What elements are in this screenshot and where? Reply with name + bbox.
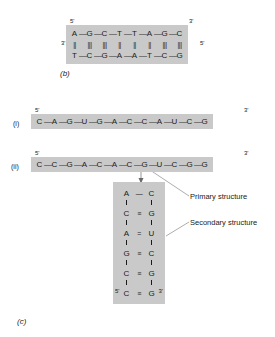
hairpin-pair-row: C≡G [113, 266, 165, 280]
dna-duplex-sequence-block: A—G—C—T—T—A—G—C |||||||||||||||||||| T—C… [66, 25, 188, 64]
hairpin-loop-link: — [132, 189, 146, 198]
rna-base-ii: G [140, 160, 149, 169]
hairpin-backbone-right [151, 200, 152, 205]
rna-ii-strand-row: C—C—G—A—C—A—C—G—U—C—G—G [35, 159, 209, 170]
dna-base-top: C [100, 29, 109, 38]
hairpin-hydrogen-bond: = [132, 229, 146, 238]
hairpin-base-right: C [146, 249, 157, 258]
rna-base-ii: C [95, 160, 104, 169]
hairpin-backbone-left [126, 280, 127, 285]
rna-base-ii: C [50, 160, 59, 169]
hairpin-base-left: C [121, 289, 132, 298]
dna-base-bottom: C [85, 51, 94, 60]
hydrogen-bond: || [115, 40, 124, 49]
hairpin-base-left: G [121, 249, 132, 258]
rna-base-i: G [95, 117, 104, 126]
rna-ii-five-prime-label: 5' [35, 150, 39, 156]
dna-base-bottom: A [130, 51, 139, 60]
rna-base-i: A [50, 117, 59, 126]
dna-top-three-prime-label: 3' [189, 18, 193, 24]
hairpin-base-left: C [121, 269, 132, 278]
hairpin-hydrogen-bond: ≡ [132, 249, 146, 258]
hairpin-pair-row: A=U [113, 226, 165, 240]
hairpin-backbone-left [126, 200, 127, 205]
dna-top-strand-row: A—G—C—T—T—A—G—C [70, 28, 184, 39]
dna-base-top: T [115, 29, 124, 38]
hairpin-base-right: G [146, 289, 157, 298]
hairpin-backbone-right [151, 280, 152, 285]
hydrogen-bond: ||| [85, 40, 94, 49]
dna-base-bottom: G [175, 51, 184, 60]
rna-base-ii: G [65, 160, 74, 169]
rna-base-i: U [170, 117, 179, 126]
rna-base-ii: C [170, 160, 179, 169]
rna-i-three-prime-label: 3' [244, 107, 248, 113]
dna-base-top: G [160, 29, 169, 38]
rna-base-i: G [65, 117, 74, 126]
hairpin-backbone-right [151, 240, 152, 245]
panel-c-label: (c) [17, 317, 26, 326]
dna-base-bottom: C [160, 51, 169, 60]
hydrogen-bond: ||| [160, 40, 169, 49]
rna-hairpin-secondary-structure: A—CC≡GA=UG≡CC≡GC≡G5'3' [113, 182, 165, 304]
rna-base-ii: C [125, 160, 134, 169]
rna-i-roman-label: (i) [13, 120, 19, 127]
rna-base-ii: A [110, 160, 119, 169]
dna-base-bottom: T [70, 51, 79, 60]
hydrogen-bond: ||| [100, 40, 109, 49]
dna-hydrogen-bond-row: |||||||||||||||||||| [70, 39, 184, 50]
annotation-secondary-structure: Secondary structure [190, 218, 257, 227]
dna-duplex-panel: 5' 3' 3' 5' A—G—C—T—T—A—G—C ||||||||||||… [66, 18, 188, 64]
dna-base-top: A [70, 29, 79, 38]
hairpin-base-left: A [121, 229, 132, 238]
dna-bottom-three-prime-label: 3' [61, 40, 65, 46]
hydrogen-bond: || [130, 40, 139, 49]
hairpin-three-prime-label: 3' [159, 288, 163, 294]
hairpin-hydrogen-bond: ≡ [132, 209, 146, 218]
rna-base-i: C [140, 117, 149, 126]
rna-base-i: C [125, 117, 134, 126]
dna-base-bottom: A [115, 51, 124, 60]
rna-base-i: A [110, 117, 119, 126]
rna-strand-ii-panel: 5' 3' C—C—G—A—C—A—C—G—U—C—G—G [31, 150, 213, 172]
hairpin-base-right: G [146, 209, 157, 218]
hairpin-hydrogen-bond: ≡ [132, 269, 146, 278]
rna-base-ii: C [35, 160, 44, 169]
leader-line-secondary [166, 222, 189, 236]
hairpin-loop-base-left: A [121, 189, 132, 198]
hairpin-backbone-left [126, 260, 127, 265]
rna-i-sequence-block: C—A—G—U—G—A—C—C—A—U—C—G [31, 114, 213, 129]
hairpin-hydrogen-bond: ≡ [132, 289, 146, 298]
rna-base-i: C [185, 117, 194, 126]
rna-base-i: U [80, 117, 89, 126]
hairpin-backbone-left [126, 220, 127, 225]
dna-base-top: C [175, 29, 184, 38]
dna-bottom-strand-row: T—C—G—A—A—T—C—G [70, 50, 184, 61]
rna-base-ii: A [80, 160, 89, 169]
rna-ii-three-prime-label: 3' [244, 150, 248, 156]
rna-base-i: A [155, 117, 164, 126]
hairpin-base-right: U [146, 229, 157, 238]
hairpin-base-right: G [146, 269, 157, 278]
hairpin-backbone-right [151, 260, 152, 265]
dna-base-top: A [145, 29, 154, 38]
rna-base-i: G [200, 117, 209, 126]
hairpin-rows-container: A—CC≡GA=UG≡CC≡GC≡G5'3' [113, 186, 165, 300]
rna-ii-roman-label: (ii) [11, 163, 19, 170]
dna-base-bottom: T [145, 51, 154, 60]
hydrogen-bond: || [145, 40, 154, 49]
rna-base-ii: G [200, 160, 209, 169]
dna-base-bottom: G [100, 51, 109, 60]
rna-base-ii: U [155, 160, 164, 169]
annotation-primary-structure: Primary structure [190, 192, 247, 201]
hairpin-backbone-left [126, 240, 127, 245]
rna-ii-sequence-block: C—C—G—A—C—A—C—G—U—C—G—G [31, 157, 213, 172]
hairpin-backbone-right [151, 220, 152, 225]
hairpin-base-left: C [121, 209, 132, 218]
rna-i-five-prime-label: 5' [35, 107, 39, 113]
hairpin-five-prime-label: 5' [115, 288, 119, 294]
hairpin-pair-row: G≡C [113, 246, 165, 260]
dna-base-top: T [130, 29, 139, 38]
hairpin-loop-row: A—C [113, 186, 165, 200]
dna-base-top: G [85, 29, 94, 38]
